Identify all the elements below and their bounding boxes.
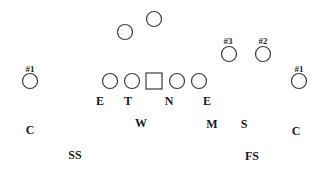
receiver-circle [292,74,307,89]
offensive-back-circle [118,25,133,40]
receiver-circle [222,47,237,62]
defender-label-end: E [96,94,104,108]
receiver-label: #2 [259,36,269,46]
lineman-circle [192,74,207,89]
receiver-label: #3 [224,36,234,46]
lineman-circle [103,74,118,89]
defender-label-mike: M [206,117,217,131]
defender-label-nose: N [165,94,174,108]
center-square [146,73,162,89]
lineman-circle [125,74,140,89]
lineman-circle [170,74,185,89]
defender-label-sam: S [241,117,248,131]
receiver-circle [256,47,271,62]
formation-diagram: #1 #3 #2 #1 E T N E W M S C C SS FS [0,0,325,171]
receiver-label: #1 [26,64,36,74]
defender-label-corner: C [26,123,35,137]
receiver-circle [23,74,38,89]
receiver-label: #1 [295,64,305,74]
defender-label-free-safety: FS [245,149,259,163]
offensive-back-circle [147,12,162,27]
defender-label-strong-safety: SS [68,148,82,162]
defender-label-will: W [135,116,147,130]
defender-label-corner: C [292,124,301,138]
defender-label-end: E [203,94,211,108]
defender-label-tackle: T [124,94,132,108]
